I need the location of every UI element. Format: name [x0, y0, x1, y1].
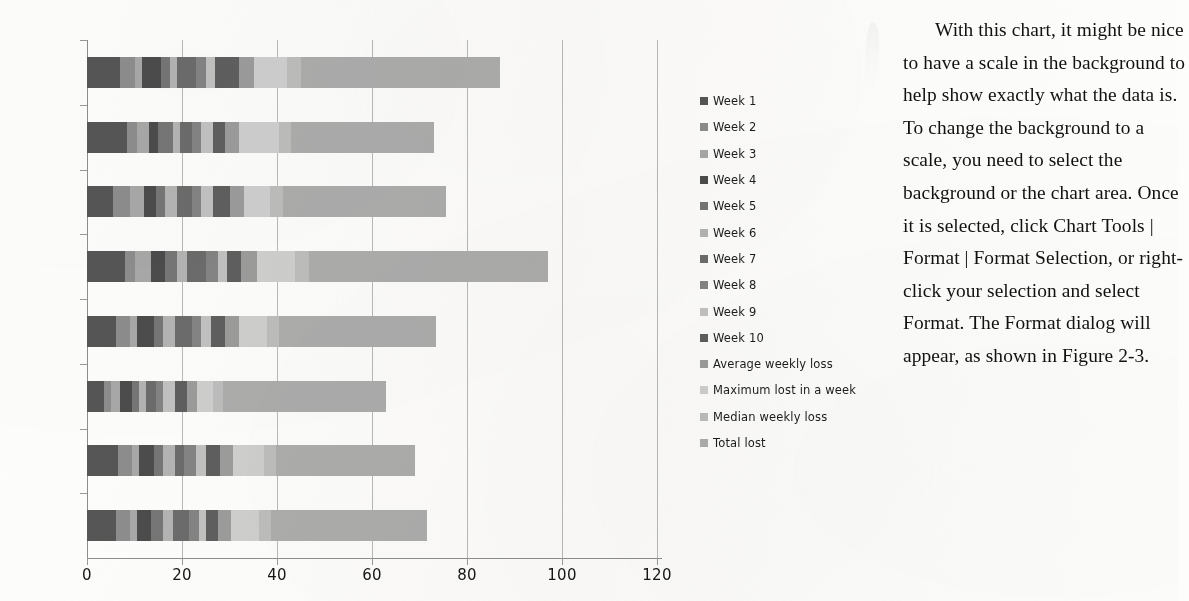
bar-segment-mary-8 [163, 381, 175, 412]
legend-entry-4: Week 5 [700, 193, 875, 219]
legend-swatch-icon-11 [700, 386, 708, 394]
legend-swatch-icon-10 [700, 360, 708, 368]
bar-segment-harry-9 [211, 316, 225, 347]
gridline-20 [182, 40, 183, 558]
bar-segment-linda-5 [165, 186, 177, 217]
legend-label-0: Week 1 [713, 94, 756, 108]
bar-segment-mary-11 [197, 381, 214, 412]
bar-segment-john-6 [175, 445, 185, 476]
bar-segment-michael-13 [301, 57, 501, 88]
x-tick-label-40: 40 [267, 566, 287, 584]
bar-larry [87, 251, 548, 282]
bar-segment-harry-1 [116, 316, 130, 347]
bar-segment-john-10 [220, 445, 233, 476]
bar-segment-john-8 [196, 445, 206, 476]
bar-segment-michael-6 [177, 57, 196, 88]
x-tick-mark-60 [372, 558, 373, 565]
bar-segment-jane-1 [116, 510, 130, 541]
bar-segment-larry-13 [309, 251, 547, 282]
bar-segment-harry-11 [239, 316, 268, 347]
bar-segment-michael-4 [161, 57, 171, 88]
bar-segment-larry-0 [87, 251, 125, 282]
x-tick-label-80: 80 [457, 566, 477, 584]
bar-jane [87, 510, 427, 541]
legend-label-11: Maximum lost in a week [713, 383, 856, 397]
bar-segment-sarah-4 [158, 122, 172, 153]
bar-segment-harry-3 [137, 316, 154, 347]
bar-segment-jane-0 [87, 510, 116, 541]
bar-segment-sarah-7 [192, 122, 202, 153]
bar-segment-michael-11 [254, 57, 287, 88]
y-tick-mark-3 [80, 234, 87, 235]
bar-segment-linda-7 [192, 186, 202, 217]
legend-entry-9: Week 10 [700, 325, 875, 351]
y-tick-mark-7 [80, 493, 87, 494]
gridline-60 [372, 40, 373, 558]
bar-segment-sarah-5 [173, 122, 180, 153]
bar-segment-sarah-6 [180, 122, 192, 153]
scan-artifact [863, 22, 882, 93]
bar-segment-jane-7 [189, 510, 199, 541]
bar-segment-larry-6 [187, 251, 206, 282]
bar-sarah [87, 122, 434, 153]
bar-segment-jane-10 [218, 510, 231, 541]
bar-segment-mary-0 [87, 381, 104, 412]
stacked-bar-chart: MichaelSarahLindaLarryHarryMaryJohnJane … [0, 0, 700, 601]
bar-segment-linda-13 [283, 186, 445, 217]
legend-label-10: Average weekly loss [713, 357, 833, 371]
y-tick-mark-2 [80, 170, 87, 171]
bar-segment-harry-6 [175, 316, 192, 347]
bar-segment-mary-1 [104, 381, 111, 412]
y-tick-mark-0 [80, 40, 87, 41]
legend-swatch-icon-13 [700, 439, 708, 447]
legend-entry-0: Week 1 [700, 88, 875, 114]
bar-segment-harry-4 [154, 316, 164, 347]
bar-segment-larry-4 [165, 251, 177, 282]
bar-segment-jane-5 [163, 510, 173, 541]
bar-segment-sarah-0 [87, 122, 127, 153]
bar-segment-jane-2 [130, 510, 137, 541]
bar-segment-michael-12 [287, 57, 300, 88]
x-tick-mark-40 [277, 558, 278, 565]
legend-swatch-icon-2 [700, 150, 708, 158]
y-tick-mark-5 [80, 364, 87, 365]
bar-segment-linda-1 [113, 186, 130, 217]
legend-swatch-icon-12 [700, 413, 708, 421]
bar-segment-harry-2 [130, 316, 137, 347]
bar-segment-sarah-11 [239, 122, 279, 153]
bar-segment-mary-9 [175, 381, 187, 412]
legend-label-4: Week 5 [713, 199, 756, 213]
legend-entry-10: Average weekly loss [700, 351, 875, 377]
gridline-120 [657, 40, 658, 558]
gridline-100 [562, 40, 563, 558]
bar-segment-michael-2 [135, 57, 142, 88]
bar-segment-jane-9 [206, 510, 218, 541]
x-tick-mark-120 [657, 558, 658, 565]
legend-swatch-icon-5 [700, 229, 708, 237]
bar-segment-mary-7 [156, 381, 163, 412]
legend-swatch-icon-0 [700, 97, 708, 105]
bar-segment-michael-1 [120, 57, 134, 88]
bar-segment-mary-3 [120, 381, 132, 412]
bar-segment-linda-10 [230, 186, 244, 217]
bar-segment-john-11 [233, 445, 264, 476]
bar-segment-harry-8 [201, 316, 211, 347]
bar-segment-linda-6 [177, 186, 191, 217]
bar-segment-larry-5 [177, 251, 187, 282]
bar-segment-john-12 [264, 445, 276, 476]
gridline-40 [277, 40, 278, 558]
bar-segment-john-3 [139, 445, 153, 476]
bar-segment-linda-8 [201, 186, 213, 217]
bar-michael [87, 57, 500, 88]
legend-label-8: Week 9 [713, 305, 756, 319]
legend-label-7: Week 8 [713, 278, 756, 292]
bar-segment-jane-6 [173, 510, 190, 541]
bar-segment-larry-8 [218, 251, 228, 282]
bar-segment-linda-12 [270, 186, 283, 217]
bar-segment-larry-3 [151, 251, 165, 282]
legend-label-3: Week 4 [713, 173, 756, 187]
bar-segment-sarah-3 [149, 122, 159, 153]
bar-segment-jane-11 [231, 510, 260, 541]
bar-segment-jane-13 [271, 510, 426, 541]
bar-segment-jane-8 [199, 510, 206, 541]
